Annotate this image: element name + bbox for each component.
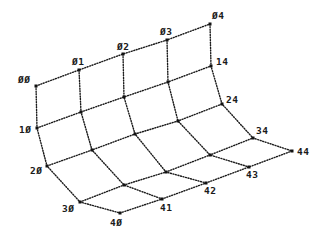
node-label-40: 4Ø (110, 217, 122, 228)
grid-node-04 (209, 23, 212, 26)
node-label-44: 44 (297, 146, 309, 157)
node-label-20: 2Ø (30, 165, 42, 176)
grid-node-10 (36, 127, 39, 130)
grid-col-line-1 (79, 70, 162, 199)
grid-node-21 (91, 149, 94, 152)
node-label-02: Ø2 (116, 41, 129, 52)
grid-node-12 (123, 96, 126, 99)
node-label-01: Ø1 (71, 56, 84, 67)
grid-node-44 (291, 150, 294, 153)
grid-node-31 (123, 184, 126, 187)
mesh-canvas: ØØØ1Ø2Ø3Ø414241Ø2Ø3Ø4Ø4142433444 (0, 0, 326, 237)
grid-node-30 (79, 201, 82, 204)
grid-node-24 (221, 103, 224, 106)
grid-node-32 (165, 171, 168, 174)
node-label-30: 3Ø (62, 203, 74, 214)
grid-node-14 (210, 65, 213, 68)
grid-node-13 (167, 81, 170, 84)
node-label-04: Ø4 (211, 10, 224, 21)
node-label-41: 41 (160, 202, 172, 213)
grid-nodes (35, 23, 294, 215)
grid-node-34 (252, 137, 255, 140)
grid-node-03 (166, 39, 169, 42)
surface-mesh-diagram: ØØØ1Ø2Ø3Ø414241Ø2Ø3Ø4Ø4142433444 (0, 0, 326, 237)
node-label-24: 24 (226, 94, 238, 105)
grid-col-line-0 (36, 86, 120, 213)
node-label-42: 42 (204, 185, 216, 196)
grid-node-11 (80, 111, 83, 114)
grid-node-20 (46, 165, 49, 168)
grid-node-23 (177, 120, 180, 123)
node-label-10: 1Ø (19, 124, 31, 135)
grid-node-01 (78, 69, 81, 72)
grid-node-02 (122, 53, 125, 56)
node-label-00: ØØ (17, 74, 30, 85)
grid-node-33 (209, 154, 212, 157)
grid-node-22 (134, 133, 137, 136)
grid-col-line-4 (210, 24, 292, 151)
node-label-14: 14 (216, 56, 228, 67)
grid-node-00 (35, 85, 38, 88)
grid-col-line-2 (123, 54, 206, 183)
node-label-34: 34 (256, 125, 268, 136)
node-label-43: 43 (246, 169, 258, 180)
grid-node-41 (161, 198, 164, 201)
grid-node-40 (119, 212, 122, 215)
grid-lines (36, 24, 292, 213)
grid-row-line-3 (80, 138, 253, 202)
node-label-03: Ø3 (159, 26, 172, 37)
